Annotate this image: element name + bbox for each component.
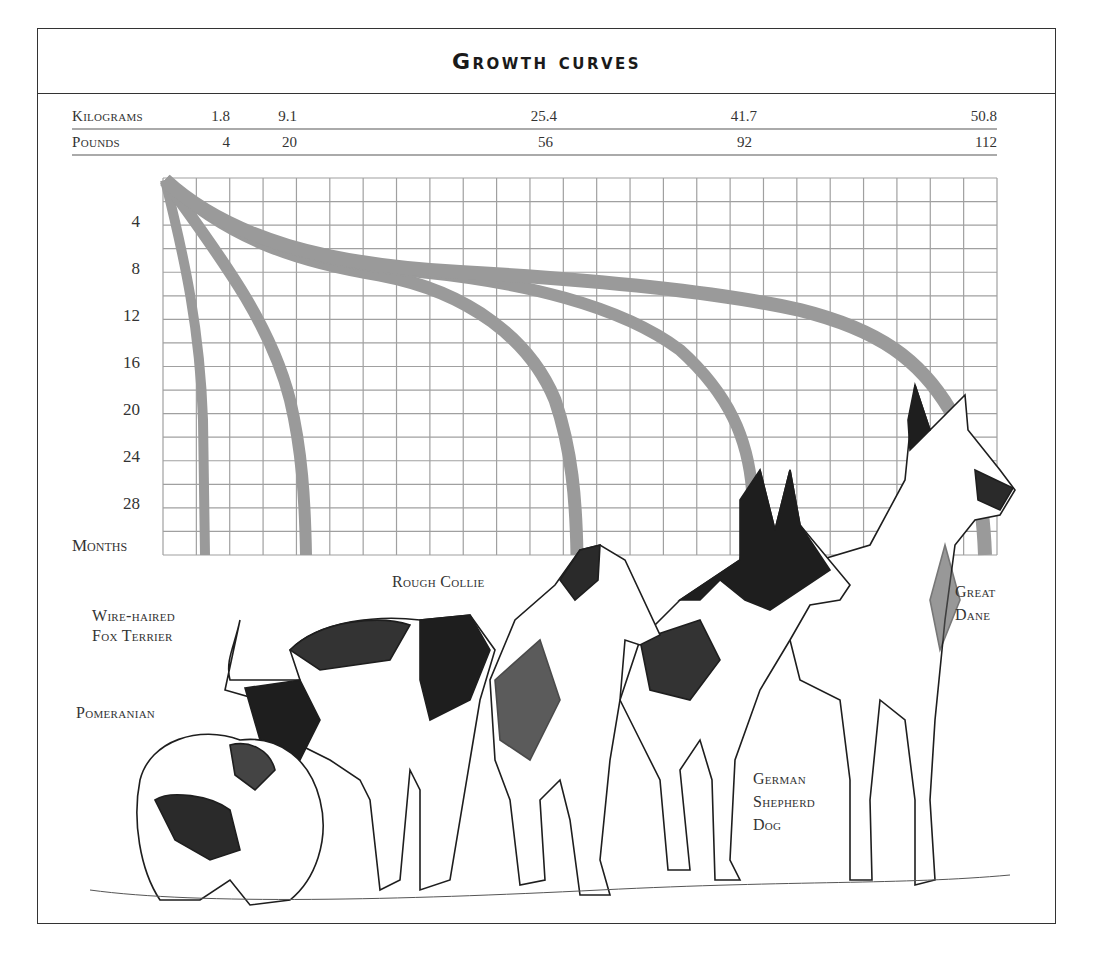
label-great-dane: Great Dane bbox=[955, 580, 996, 626]
curve-rough-collie bbox=[165, 180, 577, 555]
pomeranian-illustration bbox=[137, 734, 323, 905]
dog-illustrations bbox=[90, 385, 1015, 905]
label-rough-collie: Rough Collie bbox=[392, 572, 484, 592]
label-fox-terrier: Wire-haired Fox Terrier bbox=[92, 606, 175, 646]
y-tick-16: 16 bbox=[100, 353, 140, 373]
chart-plot-area bbox=[0, 0, 1093, 959]
label-pomeranian: Pomeranian bbox=[76, 703, 155, 723]
label-german-shepherd: German Shepherd Dog bbox=[753, 767, 815, 836]
y-tick-24: 24 bbox=[100, 447, 140, 467]
y-tick-28: 28 bbox=[100, 494, 140, 514]
growth-curves bbox=[165, 180, 985, 555]
y-tick-20: 20 bbox=[100, 400, 140, 420]
y-tick-4: 4 bbox=[100, 212, 140, 232]
y-tick-12: 12 bbox=[100, 306, 140, 326]
y-tick-8: 8 bbox=[100, 259, 140, 279]
y-axis-label: Months bbox=[72, 536, 127, 556]
